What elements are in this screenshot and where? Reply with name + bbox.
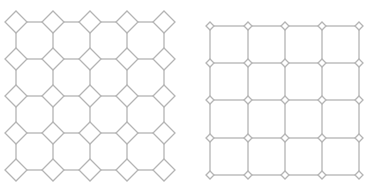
diamond-node	[206, 22, 214, 30]
diamond-node	[244, 171, 252, 179]
diamond-node	[206, 59, 214, 67]
diamond-node	[42, 159, 64, 181]
diamond-node	[79, 85, 101, 107]
diamond-node	[355, 59, 363, 67]
diamond-node	[244, 96, 252, 104]
diamond-node	[281, 22, 289, 30]
lattice-diagram	[0, 0, 370, 191]
diamond-node	[318, 22, 326, 30]
diamond-node	[355, 22, 363, 30]
diamond-node	[116, 122, 138, 144]
diamond-node	[206, 171, 214, 179]
diamond-node	[116, 159, 138, 181]
diamond-node	[318, 96, 326, 104]
diamond-node	[153, 85, 175, 107]
diamond-node	[42, 11, 64, 33]
diamond-node	[355, 134, 363, 142]
diamond-node	[355, 171, 363, 179]
diamond-node	[5, 85, 27, 107]
diamond-node	[42, 48, 64, 70]
diamond-node	[79, 11, 101, 33]
diamond-node	[5, 48, 27, 70]
diamond-node	[42, 85, 64, 107]
diamond-node	[281, 134, 289, 142]
diamond-node	[79, 122, 101, 144]
diamond-node	[318, 59, 326, 67]
diamond-node	[5, 11, 27, 33]
diamond-node	[153, 48, 175, 70]
diamond-node	[281, 171, 289, 179]
diamond-node	[244, 22, 252, 30]
diamond-node	[5, 122, 27, 144]
diamond-node	[244, 134, 252, 142]
diamond-node	[5, 159, 27, 181]
diamond-node	[153, 11, 175, 33]
diamond-node	[79, 48, 101, 70]
diamond-node	[244, 59, 252, 67]
diamond-node	[318, 171, 326, 179]
diamond-node	[281, 59, 289, 67]
diamond-node	[281, 96, 289, 104]
diamond-node	[153, 122, 175, 144]
diamond-node	[116, 85, 138, 107]
diamond-node	[116, 48, 138, 70]
diamond-node	[116, 11, 138, 33]
left-lattice-panel	[5, 11, 175, 181]
diamond-node	[153, 159, 175, 181]
diamond-node	[318, 134, 326, 142]
diamond-node	[206, 96, 214, 104]
diamond-node	[206, 134, 214, 142]
diamond-node	[79, 159, 101, 181]
diamond-node	[355, 96, 363, 104]
right-lattice-panel	[206, 22, 363, 179]
diamond-node	[42, 122, 64, 144]
